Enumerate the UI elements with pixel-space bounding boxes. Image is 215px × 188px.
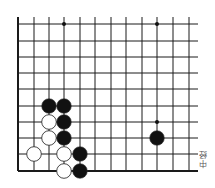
side-caption: 中经 [199,150,213,168]
black-stone [57,99,72,114]
star-point [155,120,159,124]
go-board-diagram [0,0,215,188]
black-stone [57,131,72,146]
black-stone [150,131,165,146]
white-stone [27,147,42,162]
black-stone [73,147,88,162]
black-stone [42,99,57,114]
black-stone [73,164,88,179]
white-stone [42,115,57,130]
grid-lines [18,17,198,171]
white-stone [42,131,57,146]
star-point [62,22,66,26]
white-stone [57,147,72,162]
star-point [155,22,159,26]
black-stone [57,115,72,130]
white-stone [57,164,72,179]
